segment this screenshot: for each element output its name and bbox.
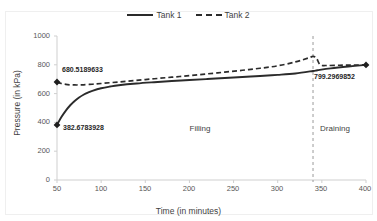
x-tick-label-400: 400 xyxy=(350,184,377,193)
data-point-marker-0 xyxy=(54,79,61,86)
y-tick-label-800: 800 xyxy=(20,60,50,69)
x-axis-title: Time (in minutes) xyxy=(0,206,377,216)
x-tick-label-250: 250 xyxy=(218,184,248,193)
annotation-filling: Filling xyxy=(170,124,230,133)
axis-lines xyxy=(57,36,366,180)
annotation-draining: Draining xyxy=(305,124,365,133)
x-tick-label-50: 50 xyxy=(42,184,72,193)
x-tick-label-300: 300 xyxy=(262,184,292,193)
x-tick-label-350: 350 xyxy=(306,184,336,193)
y-tick-label-400: 400 xyxy=(20,117,50,126)
x-tick-label-200: 200 xyxy=(174,184,204,193)
data-label-tank-2-start: 680.5189633 xyxy=(62,66,103,73)
data-point-marker-2 xyxy=(363,62,370,69)
y-tick-label-600: 600 xyxy=(20,89,50,98)
x-tick-label-100: 100 xyxy=(86,184,116,193)
y-axis-title: Pressure (in kPa) xyxy=(12,48,22,158)
y-tick-label-200: 200 xyxy=(20,146,50,155)
chart-figure: Tank 1 Tank 2 1000 800 600 4 xyxy=(0,0,377,221)
data-label-tank-1-start: 382.6783928 xyxy=(63,124,104,131)
data-label-end-point: 799.2969852 xyxy=(314,73,355,80)
y-tick-label-1000: 1000 xyxy=(20,31,50,40)
x-tick-label-150: 150 xyxy=(130,184,160,193)
y-tick-label-0: 0 xyxy=(20,175,50,184)
